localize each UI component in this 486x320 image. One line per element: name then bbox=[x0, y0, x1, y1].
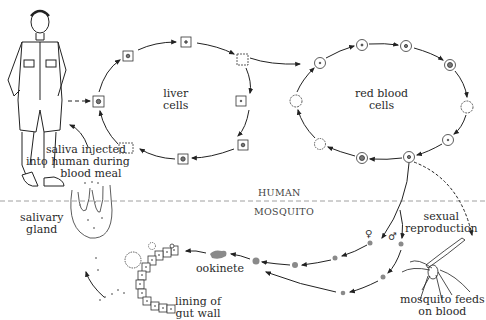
female-symbol: ♀ bbox=[365, 228, 372, 240]
salivary-gland-label: salivary gland bbox=[20, 212, 63, 236]
gut-wall-icon bbox=[95, 243, 178, 314]
salivary-gland-icon bbox=[71, 181, 112, 238]
red-blood-cells-label: red blood cells bbox=[355, 88, 408, 112]
male-symbol: ♂ bbox=[388, 231, 397, 243]
ookinete-label: ookinete bbox=[196, 263, 244, 275]
liver-label-line2: cells bbox=[163, 100, 188, 112]
salivary-line2: gland bbox=[20, 224, 63, 236]
human-region-label: HUMAN bbox=[258, 187, 301, 199]
rbc-label-line2: cells bbox=[355, 100, 408, 112]
saliva-line3: blood meal bbox=[26, 168, 130, 180]
mosquito-region-label: MOSQUITO bbox=[254, 206, 314, 218]
gut-line2: gut wall bbox=[175, 308, 221, 320]
liver-cells-label: liver cells bbox=[163, 88, 188, 112]
feeds-line2: on blood bbox=[400, 306, 485, 318]
male-branch-arrow bbox=[400, 210, 403, 238]
saliva-label: saliva injected into human during blood … bbox=[26, 144, 130, 180]
sexual-reproduction-label: sexual reproduction bbox=[405, 211, 478, 235]
mosquito-feeds-label: mosquito feeds on blood bbox=[400, 294, 485, 318]
mosquito-icon bbox=[402, 238, 470, 300]
sexual-line2: reproduction bbox=[405, 223, 478, 235]
gut-wall-label: lining of gut wall bbox=[175, 296, 221, 320]
